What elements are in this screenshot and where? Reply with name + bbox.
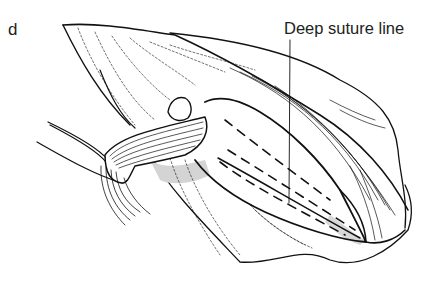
top-flap [63, 24, 408, 210]
top-flap-inner-edge [100, 70, 135, 128]
retractor-upper-edge-2 [50, 125, 106, 162]
flap-dotted-fibers [78, 28, 255, 125]
label-leader-line [289, 40, 290, 203]
shade-region [150, 160, 210, 183]
muscle-fibers [230, 68, 395, 240]
tissue-knot [168, 98, 191, 121]
surgical-illustration [0, 0, 441, 281]
